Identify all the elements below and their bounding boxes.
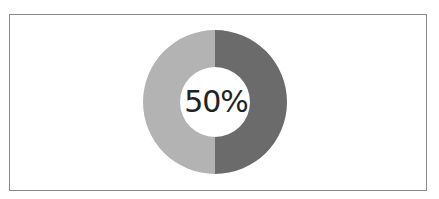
percentage-label: 50% [176, 84, 256, 119]
